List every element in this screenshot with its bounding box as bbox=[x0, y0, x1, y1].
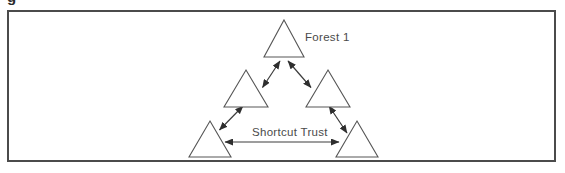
root-domain-triangle bbox=[264, 20, 304, 57]
trust-arrow-child-right-to-grandchild-right bbox=[329, 106, 347, 133]
shortcut-trust-label: Shortcut Trust bbox=[252, 126, 328, 138]
child-domain-left-triangle bbox=[224, 70, 268, 107]
forest-trust-diagram bbox=[0, 0, 565, 173]
forest-label: Forest 1 bbox=[305, 31, 350, 43]
trust-arrow-root-to-child-left bbox=[263, 61, 281, 88]
grandchild-domain-left-triangle bbox=[189, 121, 231, 157]
trust-arrow-root-to-child-right bbox=[288, 61, 311, 88]
figure-canvas: g Forest 1 Shortcut Trust bbox=[0, 0, 565, 173]
trust-arrow-child-left-to-grandchild-left bbox=[220, 106, 244, 130]
child-domain-right-triangle bbox=[306, 70, 350, 107]
